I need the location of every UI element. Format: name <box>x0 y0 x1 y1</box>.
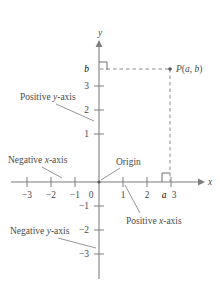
callout-positive-y-prefix: Positive <box>20 92 53 102</box>
a-coordinate-label: a <box>162 190 167 200</box>
callout-negative-x-prefix: Negative <box>8 155 45 165</box>
y-tick-label-2: 2 <box>84 105 89 115</box>
y-tick-label-neg3: −3 <box>79 249 89 259</box>
callout-positive-x-suffix: -axis <box>163 216 182 226</box>
callout-negative-y-suffix: -axis <box>51 226 70 236</box>
x-tick-label-3: 3 <box>172 190 177 200</box>
origin-marker <box>97 180 100 183</box>
y-tick-label-neg2: −2 <box>79 225 89 235</box>
right-angle-marker-x-axis <box>162 173 170 182</box>
point-p-close-paren: ) <box>199 64 202 75</box>
x-tick-label-neg2: −2 <box>46 190 56 200</box>
y-tick-label-1: 1 <box>84 129 89 139</box>
callout-negative-x-axis: Negative x-axis <box>8 155 68 165</box>
leader-negative-y-axis <box>58 238 96 248</box>
leader-positive-x-axis <box>125 185 140 213</box>
x-tick-label-1: 1 <box>121 190 126 200</box>
x-tick-label-2: 2 <box>145 190 150 200</box>
x-tick-label-neg3: −3 <box>22 190 32 200</box>
callout-negative-y-prefix: Negative <box>10 226 47 236</box>
b-coordinate-label: b <box>84 64 89 74</box>
x-axis-name-label: x <box>207 177 213 187</box>
callout-negative-y-axis: Negative y-axis <box>10 226 70 236</box>
coordinate-plane-figure: −3 −2 −1 1 2 3 3 2 1 −1 −2 −3 0 x y b a … <box>0 0 220 290</box>
y-axis-name-label: y <box>97 28 103 38</box>
y-tick-labels: 3 2 1 −1 −2 −3 <box>79 81 89 259</box>
callout-positive-y-suffix: -axis <box>57 92 76 102</box>
x-tick-label-neg1: −1 <box>70 190 80 200</box>
leader-origin <box>101 168 120 180</box>
point-p-marker <box>168 67 172 71</box>
callout-origin: Origin <box>116 157 141 167</box>
leader-negative-x-axis <box>42 167 62 178</box>
y-tick-label-3: 3 <box>84 81 89 91</box>
origin-zero-label: 0 <box>89 190 94 200</box>
callout-positive-y-axis: Positive y-axis <box>20 92 76 102</box>
coordinate-plane-svg: −3 −2 −1 1 2 3 3 2 1 −1 −2 −3 0 x y b a … <box>0 0 220 290</box>
callout-negative-x-suffix: -axis <box>49 155 68 165</box>
x-axis-arrowhead <box>198 179 205 186</box>
callout-positive-x-axis: Positive x-axis <box>126 216 182 226</box>
y-axis-arrowhead <box>96 40 103 47</box>
point-p-label: P(a, b) <box>175 64 202 75</box>
y-tick-label-neg1: −1 <box>79 201 89 211</box>
callout-positive-x-prefix: Positive <box>126 216 159 226</box>
